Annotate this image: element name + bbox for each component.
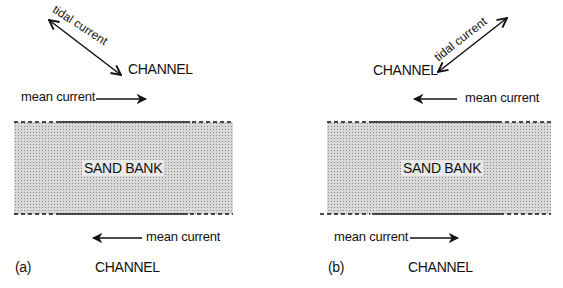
bank-edges-a — [14, 122, 233, 214]
tidal-current-arrow-a — [49, 20, 121, 75]
tidal-current-arrow-b — [438, 18, 507, 72]
bank-edges-b — [320, 122, 551, 214]
diagram-lines — [0, 0, 563, 288]
